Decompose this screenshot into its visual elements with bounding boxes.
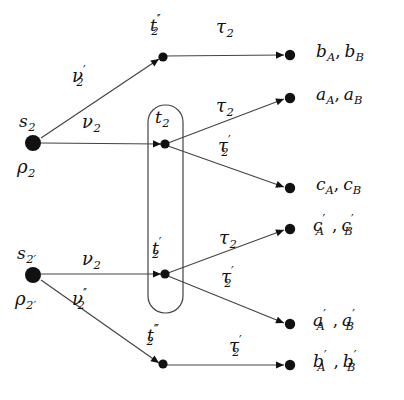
arc-t2pp-b-arrowhead — [276, 51, 284, 58]
source-node-s2p[interactable] — [25, 267, 41, 283]
place-label-p_a: aA,aB — [316, 86, 362, 103]
transition-node-t2p[interactable] — [160, 269, 169, 278]
arc-label-lbl-tau2b: τ2 — [219, 229, 236, 247]
place-node-p_ap[interactable] — [285, 319, 295, 329]
arc-s2-t2-arrowhead — [153, 140, 161, 147]
transition-label-t2pp: t′′2 — [150, 17, 167, 34]
diagram-canvas — [0, 0, 404, 400]
arc-s2-t2-line — [41, 143, 161, 144]
transition-label-t2: t2 — [155, 109, 169, 126]
arc-s2p-t2p-arrowhead — [153, 270, 161, 277]
transition-node-t2pp[interactable] — [158, 52, 167, 61]
arc-s2p-t2ppp — [41, 280, 159, 363]
arc-t2-c-arrowhead — [275, 181, 284, 188]
arc-t2pp-b — [163, 51, 284, 58]
source-label-s2p-bottom: ρ2′ — [15, 290, 36, 308]
arc-t2ppp-bp-arrowhead — [276, 361, 284, 368]
transition-label-t2p: t′2 — [152, 240, 167, 257]
place-label-p_cp: c′A,c′B — [313, 217, 361, 234]
place-label-p_ap: a′A,a′B — [313, 312, 362, 329]
source-label-s2-bottom: ρ2 — [17, 158, 35, 176]
place-node-p_a[interactable] — [285, 93, 295, 103]
arc-t2pp-b-line — [163, 55, 284, 56]
arc-s2p-t2p — [41, 270, 161, 277]
place-node-p_bp[interactable] — [285, 360, 295, 370]
place-label-p_c: cA,cB — [316, 176, 361, 193]
arc-label-lbl-tau2pb: τ′2 — [221, 268, 240, 286]
arc-s2p-t2ppp-line — [41, 280, 159, 363]
arc-label-lbl-nu2b: ν2 — [82, 250, 100, 268]
arc-s2-t2 — [41, 140, 161, 147]
place-node-p_cp[interactable] — [285, 224, 295, 234]
arc-label-lbl-nu2p: ν′2 — [72, 67, 92, 85]
place-label-p_bp: b′A,b′B — [313, 353, 363, 370]
arc-label-lbl-tau2pc: τ′2 — [229, 337, 248, 355]
source-label-s2p-top: s2′ — [17, 245, 36, 262]
arc-label-lbl-tau2pp: τ2 — [216, 18, 233, 36]
arc-label-lbl-nu2pp: ν′′2 — [72, 290, 93, 308]
arc-label-lbl-tau2pa: τ′2 — [218, 137, 237, 155]
place-group-box — [148, 105, 183, 313]
source-node-s2[interactable] — [25, 135, 41, 151]
place-node-p_b[interactable] — [285, 50, 295, 60]
arc-label-lbl-nu2: ν2 — [82, 113, 100, 131]
arc-t2p-cp-arrowhead — [275, 229, 284, 236]
source-label-s2-top: s2 — [19, 113, 35, 130]
petri-net-figure: s2ρ2s2′ρ2′t′′2t2t′2t′′′2ν′2ν2ν2ν′′2τ2τ′2… — [0, 0, 404, 400]
transition-node-t2ppp[interactable] — [158, 359, 167, 368]
arc-s2-t2pp-arrowhead — [150, 59, 159, 66]
arc-t2ppp-bp — [163, 361, 284, 368]
transition-label-t2ppp: t′′′2 — [147, 327, 165, 344]
transition-node-t2[interactable] — [160, 139, 169, 148]
place-node-p_c[interactable] — [285, 183, 295, 193]
arc-label-lbl-tau2a: τ2 — [216, 97, 233, 115]
place-label-p_b: bA,bB — [316, 43, 364, 60]
arc-t2-a-arrowhead — [275, 98, 284, 105]
arc-s2p-t2ppp-arrowhead — [150, 355, 159, 363]
